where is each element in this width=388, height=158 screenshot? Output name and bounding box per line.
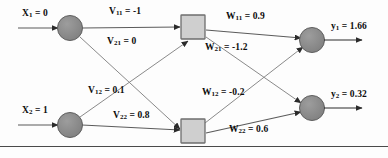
input-node-x1: [58, 16, 83, 41]
output-node-y1: [300, 28, 325, 53]
weight-label-w12: W12 = -0.2: [202, 87, 245, 98]
weight-label-w21: W21 = -1.2: [205, 42, 248, 53]
edge-v22: [82, 125, 180, 130]
input-layer-group: [58, 16, 83, 138]
hidden-layer-group: [181, 15, 205, 143]
footer-divider: [0, 146, 388, 147]
hidden-node-h2: [181, 119, 205, 143]
hidden-node-h1: [181, 15, 205, 39]
neural-network-diagram: X1 = 0 X2 = 1 V11 = -1 V21 = 0 V12 = 0.1…: [0, 0, 388, 158]
output-node-y2: [300, 96, 325, 121]
output-layer-group: [300, 28, 325, 121]
edge-v11: [82, 27, 180, 28]
input-label-x2: X2 = 1: [22, 105, 48, 116]
weight-label-v22: V22 = 0.8: [113, 110, 150, 121]
edge-w12: [205, 47, 303, 123]
output-label-y1: y1 = 1.66: [331, 21, 367, 32]
input-label-x1: X1 = 0: [22, 8, 48, 19]
input-node-x2: [58, 113, 83, 138]
weight-label-v12: V12 = 0.1: [88, 85, 125, 96]
weight-label-w22: W22 = 0.6: [229, 124, 268, 135]
output-label-y2: y2 = 0.32: [331, 89, 367, 100]
weight-label-v11: V11 = -1: [109, 6, 141, 17]
network-canvas: [0, 0, 388, 158]
weight-label-w11: W11 = 0.9: [226, 11, 265, 22]
weight-label-v21: V21 = 0: [107, 36, 136, 47]
edge-w11: [206, 30, 301, 38]
